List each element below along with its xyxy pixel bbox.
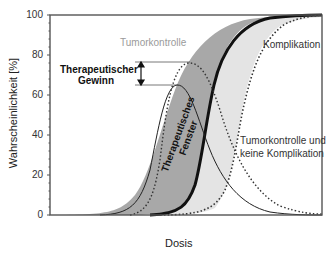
gain-line2: Gewinn [60,75,132,86]
ytick-60: 60 [21,89,43,100]
x-axis-label: Dosis [165,237,193,249]
therapeutic-gain-label: Therapeutischer Gewinn [60,64,132,86]
complication-label: Komplikation [263,39,320,50]
tc-no-complication-label: Tumorkontrolle und keine Komplikation [240,134,326,160]
y-axis-label: Wahrscheinlichkeit [%] [7,48,19,178]
tc-line2: keine Komplikation [240,147,326,160]
double-arrow-icon [138,62,144,85]
ytick-80: 80 [21,49,43,60]
tumor-control-label: Tumorkontrolle [120,37,186,48]
gain-line1: Therapeutischer [60,64,132,75]
ytick-100: 100 [21,9,43,20]
ytick-20: 20 [21,169,43,180]
ytick-40: 40 [21,129,43,140]
ytick-0: 0 [21,209,43,220]
tc-line1: Tumorkontrolle und [240,134,326,147]
